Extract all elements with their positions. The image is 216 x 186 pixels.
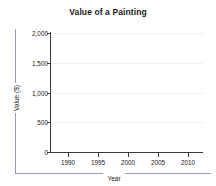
x-tick-mark xyxy=(158,153,159,157)
x-tick-label: 1990 xyxy=(53,159,83,167)
x-tick-label: 2005 xyxy=(143,159,173,167)
y-axis-title: Value ($) xyxy=(12,83,19,113)
x-tick-mark xyxy=(128,153,129,157)
x-axis-title-wrapper: Year xyxy=(88,167,140,179)
x-tick-mark xyxy=(188,153,189,157)
y-tick-label: 0 xyxy=(18,149,48,156)
gridline xyxy=(50,33,203,34)
chart-title: Value of a Painting xyxy=(0,7,216,18)
x-axis-line xyxy=(50,152,203,153)
y-tick-label: 1,000 xyxy=(18,89,48,96)
gridline xyxy=(50,93,203,94)
x-tick-label: 1995 xyxy=(83,159,113,167)
y-axis-title-wrapper: Value ($) xyxy=(9,78,22,118)
x-tick-label: 2000 xyxy=(113,159,143,167)
gridline xyxy=(50,122,203,123)
y-tick-label: 500 xyxy=(18,119,48,126)
y-tick-label: 1,500 xyxy=(18,59,48,66)
gridline xyxy=(50,63,203,64)
x-tick-label: 2010 xyxy=(173,159,203,167)
plot-area: 05001,0001,5002,000 19901995200020052010 xyxy=(50,33,203,152)
x-tick-mark xyxy=(98,153,99,157)
x-tick-mark xyxy=(68,153,69,157)
x-axis-title: Year xyxy=(103,173,124,185)
chart-figure: Value of a Painting Value ($) Year 05001… xyxy=(0,0,216,186)
y-tick-label: 2,000 xyxy=(18,30,48,37)
